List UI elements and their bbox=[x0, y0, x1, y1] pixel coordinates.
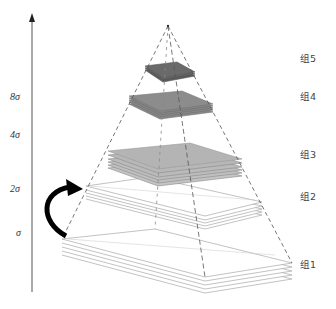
group4-stack bbox=[129, 91, 213, 119]
curved-arrow-icon bbox=[47, 179, 83, 236]
group-label-3: 组3 bbox=[300, 149, 316, 160]
group3-stack bbox=[108, 143, 242, 186]
group1-stack bbox=[62, 229, 292, 293]
axis-labels: 8σ 4σ 2σ σ bbox=[10, 91, 22, 238]
axis-label-2sigma: 2σ bbox=[10, 183, 21, 194]
group-label-5: 组5 bbox=[300, 53, 316, 64]
axis-label-4sigma: 4σ bbox=[10, 129, 21, 140]
group-label-4: 组4 bbox=[300, 91, 316, 102]
group-labels: 组5 组4 组3 组2 组1 bbox=[300, 53, 316, 270]
pyramid-diagram: 8σ 4σ 2σ σ bbox=[0, 0, 336, 309]
axis-arrow-head-icon bbox=[29, 13, 35, 22]
pyramid-apex bbox=[167, 25, 169, 27]
group5-stack bbox=[145, 62, 195, 82]
group-label-2: 组2 bbox=[300, 191, 316, 202]
axis-label-8sigma: 8σ bbox=[10, 91, 21, 102]
scale-axis bbox=[29, 13, 35, 292]
group-label-1: 组1 bbox=[300, 259, 316, 270]
axis-label-sigma: σ bbox=[16, 227, 22, 238]
group2-stack bbox=[86, 177, 262, 229]
